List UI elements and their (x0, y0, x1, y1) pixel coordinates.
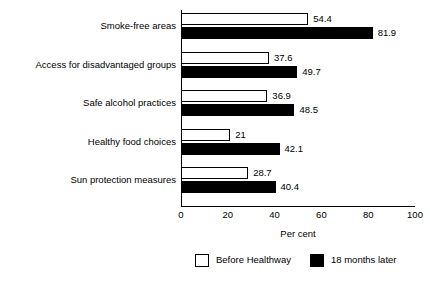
black-square-icon (310, 254, 324, 267)
bar-after (181, 181, 276, 193)
bar-after (181, 143, 280, 155)
category-label: Access for disadvantaged groups (0, 59, 176, 70)
bar-value-label: 49.7 (302, 66, 321, 78)
category-label: Smoke-free areas (0, 20, 176, 31)
x-axis-tick-labels: 020406080100 (181, 209, 415, 223)
category-label: Healthy food choices (0, 136, 176, 147)
bar-before (181, 167, 248, 179)
bar-before (181, 13, 308, 25)
x-axis-line (181, 206, 415, 207)
legend-label: Before Healthway (216, 254, 291, 266)
white-square-icon (195, 254, 209, 267)
bar-chart-figure: Smoke-free areasAccess for disadvantaged… (0, 0, 430, 283)
bar-value-label: 28.7 (253, 167, 272, 179)
bar-before (181, 129, 230, 141)
category-axis: Smoke-free areasAccess for disadvantaged… (0, 0, 176, 206)
x-axis-title: Per cent (181, 228, 415, 240)
bar-value-label: 54.4 (313, 13, 332, 25)
x-tick-label: 100 (407, 209, 423, 221)
bar-value-label: 48.5 (299, 104, 318, 116)
x-tick-label: 40 (269, 209, 280, 221)
x-tick-label: 0 (178, 209, 183, 221)
legend-entry: Before Healthway (195, 252, 291, 268)
category-label: Sun protection measures (0, 174, 176, 185)
bar-after (181, 27, 373, 39)
x-tick-label: 80 (363, 209, 374, 221)
chart-legend: Before Healthway18 months later (181, 252, 430, 270)
bar-value-label: 21 (235, 129, 246, 141)
bar-after (181, 104, 294, 116)
bar-value-label: 36.9 (272, 90, 291, 102)
x-tick-label: 20 (223, 209, 234, 221)
x-tick-label: 60 (316, 209, 327, 221)
bar-value-label: 37.6 (274, 52, 293, 64)
bar-before (181, 52, 269, 64)
plot-area: 54.481.937.649.736.948.52142.128.740.4 (181, 10, 415, 206)
legend-label: 18 months later (331, 254, 396, 266)
bar-after (181, 66, 297, 78)
bar-value-label: 81.9 (378, 27, 397, 39)
bar-value-label: 40.4 (281, 181, 300, 193)
bar-value-label: 42.1 (285, 143, 304, 155)
bar-before (181, 90, 267, 102)
legend-entry: 18 months later (310, 252, 396, 268)
category-label: Safe alcohol practices (0, 97, 176, 108)
